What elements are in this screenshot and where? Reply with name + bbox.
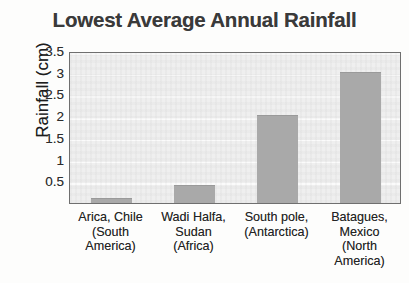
x-axis-category-label: South pole,(Antarctica) — [235, 210, 318, 239]
chart-title: Lowest Average Annual Rainfall — [0, 8, 409, 32]
y-axis-tick-label: 0.5 — [30, 176, 64, 190]
y-axis-tick-labels: 3.532.521.510.5 — [30, 52, 64, 203]
y-axis-tick-label: 3.5 — [30, 45, 64, 59]
y-axis-tick-label: 3 — [30, 67, 64, 81]
x-axis-label-line: Wadi Halfa, — [152, 210, 235, 225]
y-axis-tick-label: 2 — [30, 110, 64, 124]
x-axis-label-line: South pole, — [235, 210, 318, 225]
x-axis-label-line: (South — [69, 225, 152, 240]
x-axis-category-label: Arica, Chile(SouthAmerica) — [69, 210, 152, 254]
y-axis-tick-label: 1 — [30, 154, 64, 168]
x-axis-label-line: Batagues, — [318, 210, 401, 225]
chart-figure: Lowest Average Annual Rainfall Rainfall … — [0, 0, 409, 283]
bar — [91, 198, 133, 203]
plot-area — [69, 52, 401, 204]
y-axis-tick-label: 1.5 — [30, 132, 64, 146]
x-axis-label-line: America) — [69, 239, 152, 254]
x-axis-category-label: Batagues,Mexico(NorthAmerica) — [318, 210, 401, 268]
x-axis-category-label: Wadi Halfa,Sudan(Africa) — [152, 210, 235, 254]
y-axis-tick-label: 2.5 — [30, 89, 64, 103]
gridline — [70, 53, 400, 55]
x-axis-label-line: Sudan — [152, 225, 235, 240]
x-axis-label-line: (Antarctica) — [235, 225, 318, 240]
x-axis-label-line: America) — [318, 254, 401, 269]
x-axis-label-line: Mexico — [318, 225, 401, 240]
x-axis-label-line: (Africa) — [152, 239, 235, 254]
bar — [174, 185, 216, 203]
x-axis-category-labels: Arica, Chile(SouthAmerica)Wadi Halfa,Sud… — [69, 210, 401, 283]
x-axis-label-line: (North — [318, 239, 401, 254]
bar — [257, 115, 299, 203]
x-axis-label-line: Arica, Chile — [69, 210, 152, 225]
bar — [340, 72, 382, 203]
